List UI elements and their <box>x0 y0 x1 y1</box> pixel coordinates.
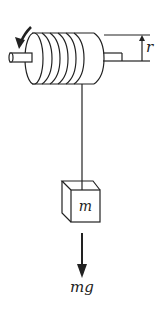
arrow-down-icon <box>77 264 87 278</box>
mass-label: m <box>79 198 92 214</box>
coil-windings <box>25 33 84 84</box>
radius-label: r <box>146 38 154 56</box>
right-axle <box>103 53 122 61</box>
force-label: mg <box>70 278 94 296</box>
left-axle <box>9 53 32 62</box>
pulley-diagram: r m mg <box>0 0 166 313</box>
